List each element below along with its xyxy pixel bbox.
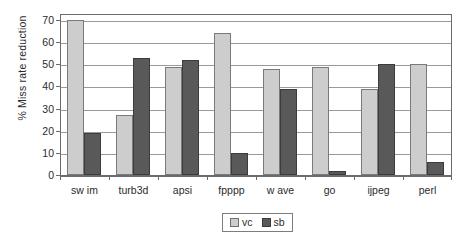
x-axis-tick-mark <box>158 176 159 180</box>
y-axis-tick-label: 10 <box>8 148 54 159</box>
x-axis-tick-mark <box>256 176 257 180</box>
bar-vc <box>116 115 133 175</box>
y-axis-tick-label: 50 <box>8 59 54 70</box>
x-axis-tick-mark <box>451 176 452 180</box>
bar-vc <box>263 69 280 175</box>
bar-group <box>61 15 110 175</box>
legend-label: vc <box>242 217 253 228</box>
bar-sb <box>182 60 199 175</box>
bar-vc <box>312 67 329 176</box>
bar-vc <box>361 89 378 175</box>
bar-group <box>110 15 159 175</box>
y-axis-tick-label: 30 <box>8 104 54 115</box>
y-axis-tick-label: 70 <box>8 15 54 26</box>
x-axis-tick-mark <box>207 176 208 180</box>
bar-sb <box>378 64 395 175</box>
legend-swatch-sb <box>262 218 271 227</box>
bar-sb <box>133 58 150 175</box>
bar-group <box>404 15 453 175</box>
x-axis-tick-mark <box>354 176 355 180</box>
bar-group <box>257 15 306 175</box>
x-axis-tick-mark <box>60 176 61 180</box>
bar-group <box>159 15 208 175</box>
bar-sb <box>84 133 101 175</box>
legend-swatch-vc <box>230 218 239 227</box>
legend-label: sb <box>274 217 285 228</box>
bar-group <box>355 15 404 175</box>
y-axis-tick-label: 20 <box>8 126 54 137</box>
y-axis-tick-label: 40 <box>8 81 54 92</box>
plot-area <box>60 14 452 176</box>
bar-sb <box>231 153 248 175</box>
chart-legend: vcsb <box>222 213 293 232</box>
legend-entry-vc: vc <box>230 217 253 228</box>
legend-entry-sb: sb <box>262 217 285 228</box>
y-axis-tick-label: 60 <box>8 37 54 48</box>
y-axis-tick-label: 0 <box>8 170 54 181</box>
bar-sb <box>427 162 444 175</box>
bar-group <box>208 15 257 175</box>
x-axis-tick-mark <box>109 176 110 180</box>
bar-chart-figure: % Miss rate reduction 010203040506070 sw… <box>0 0 471 244</box>
x-axis-tick-mark <box>403 176 404 180</box>
bar-vc <box>214 33 231 175</box>
bar-sb <box>280 89 297 175</box>
bar-groups <box>61 15 451 175</box>
bar-sb <box>329 171 346 175</box>
x-axis-tick-mark <box>305 176 306 180</box>
bar-vc <box>67 20 84 175</box>
x-axis-category-label: perl <box>398 184 458 196</box>
bar-group <box>306 15 355 175</box>
bar-vc <box>410 64 427 175</box>
bar-vc <box>165 67 182 176</box>
